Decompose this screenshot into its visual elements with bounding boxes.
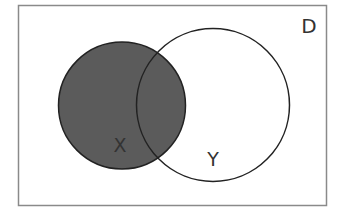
set-x-label: X bbox=[113, 134, 126, 156]
venn-diagram: D X Y bbox=[0, 0, 338, 217]
set-y-label: Y bbox=[206, 148, 219, 170]
universe-label: D bbox=[301, 14, 316, 38]
